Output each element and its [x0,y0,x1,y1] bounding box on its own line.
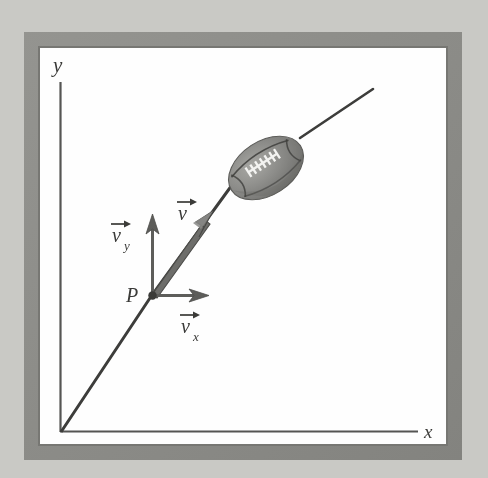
vector-vx-label-subscript: x [192,329,199,344]
point-p-dot [148,291,156,299]
figure-canvas [40,48,446,444]
vector-vy-label-subscript: y [122,238,130,253]
vector-v-label-text: v [178,202,187,224]
x-axis-label: x [423,421,433,442]
point-p-label: P [125,284,138,306]
vector-vy-label-text: v [112,224,121,246]
projectile-vector-diagram: y x P v v y [0,0,488,478]
y-axis-label: y [51,53,63,77]
figure-root: y x P v v y [0,0,488,478]
vector-vx-label-text: v [181,315,190,337]
